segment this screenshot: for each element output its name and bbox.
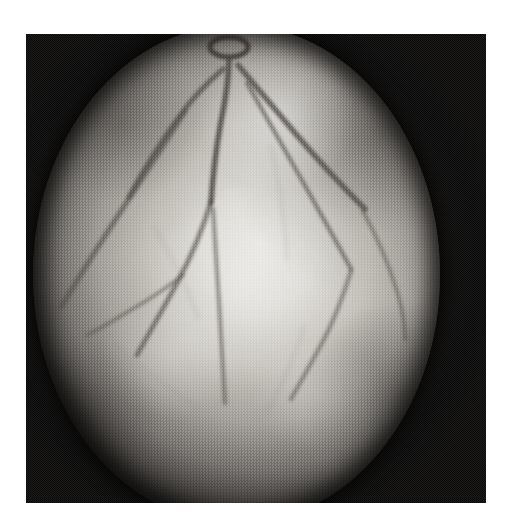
- vessel-loop-superior: [210, 37, 248, 57]
- figure-caption: [26, 506, 486, 520]
- vessel-faint-3: [265, 325, 305, 415]
- vessel-branch-inferior-right: [291, 271, 351, 399]
- vascular-pattern: [33, 34, 440, 503]
- vessel-faint-2: [153, 225, 199, 319]
- vessel-faint-4: [117, 345, 199, 409]
- vessel-branch-right-marginal: [363, 211, 405, 339]
- vessel-branch-inferior-left: [87, 275, 183, 335]
- vessel-branch-right-superior: [238, 65, 365, 209]
- vessel-branch-mid-inferior: [213, 209, 225, 403]
- photograph-plate: [26, 34, 486, 503]
- vessel-branch-left-long: [61, 111, 185, 307]
- vessel-branch-mid-left: [137, 201, 211, 355]
- vessel-faint-1: [271, 145, 287, 261]
- page-canvas: [0, 0, 508, 523]
- endoscope-circular-field: [33, 34, 440, 503]
